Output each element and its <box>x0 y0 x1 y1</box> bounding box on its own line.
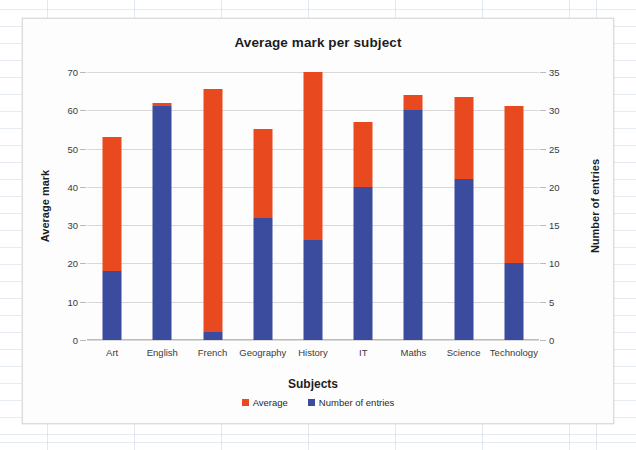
bar-stack[interactable] <box>103 137 122 340</box>
x-axis-tick-label: Technology <box>490 347 538 358</box>
y-axis-right-tick-label: 0 <box>549 335 554 346</box>
y-axis-right-tick-label: 30 <box>549 105 560 116</box>
bar-stack[interactable] <box>504 106 523 340</box>
bar-stack[interactable] <box>153 103 172 340</box>
y-axis-right-tick-label: 15 <box>549 220 560 231</box>
bar-stack[interactable] <box>354 122 373 340</box>
bar-segment-number-of-entries[interactable] <box>404 110 423 340</box>
y-axis-right-tick <box>540 302 546 303</box>
y-axis-left-tick <box>80 340 86 341</box>
y-axis-left-title-text: Average mark <box>39 170 51 242</box>
y-axis-right-tick-label: 5 <box>549 296 554 307</box>
legend-label: Number of entries <box>319 397 395 408</box>
legend-swatch-icon <box>308 399 315 406</box>
bar-segment-average[interactable] <box>303 72 322 240</box>
chart-legend: AverageNumber of entries <box>23 397 613 408</box>
bar-segment-average[interactable] <box>404 95 423 110</box>
bar-segment-number-of-entries[interactable] <box>354 187 373 340</box>
bar-segment-average[interactable] <box>203 89 222 332</box>
y-axis-left-tick <box>80 302 86 303</box>
y-axis-left-tick-label: 20 <box>67 258 78 269</box>
y-axis-right-tick <box>540 340 546 341</box>
y-axis-left-tick <box>80 149 86 150</box>
bar-stack[interactable] <box>253 129 272 340</box>
x-axis-tick-label: English <box>147 347 178 358</box>
bar-segment-average[interactable] <box>253 129 272 217</box>
y-axis-right-tick-label: 10 <box>549 258 560 269</box>
y-axis-right-tick <box>540 149 546 150</box>
y-axis-left-tick-label: 30 <box>67 220 78 231</box>
bar-group[interactable]: English <box>137 72 187 340</box>
bar-segment-number-of-entries[interactable] <box>504 263 523 340</box>
bar-group[interactable]: Maths <box>388 72 438 340</box>
y-axis-left-title: Average mark <box>37 72 53 340</box>
bar-stack[interactable] <box>203 89 222 340</box>
bar-group[interactable]: Technology <box>489 72 539 340</box>
y-axis-right-tick <box>540 110 546 111</box>
x-axis-tick-label: French <box>198 347 228 358</box>
y-axis-right-tick <box>540 225 546 226</box>
bar-group[interactable]: IT <box>338 72 388 340</box>
bar-stack[interactable] <box>303 72 322 340</box>
y-axis-right-tick-label: 35 <box>549 67 560 78</box>
y-axis-left-tick-label: 50 <box>67 143 78 154</box>
bar-segment-average[interactable] <box>354 122 373 187</box>
x-axis-tick-label: Maths <box>401 347 427 358</box>
bar-stack[interactable] <box>404 95 423 340</box>
y-axis-right-tick-label: 25 <box>549 143 560 154</box>
bar-segment-number-of-entries[interactable] <box>153 106 172 340</box>
chart-title: Average mark per subject <box>23 35 613 50</box>
legend-item[interactable]: Average <box>242 397 288 408</box>
y-axis-left-tick-label: 0 <box>73 335 78 346</box>
bar-series-group: ArtEnglishFrenchGeographyHistoryITMathsS… <box>87 72 539 340</box>
bar-segment-average[interactable] <box>454 97 473 179</box>
y-axis-left-tick <box>80 263 86 264</box>
bar-segment-average[interactable] <box>504 106 523 263</box>
bar-group[interactable]: Science <box>439 72 489 340</box>
bar-segment-number-of-entries[interactable] <box>103 271 122 340</box>
x-axis-title: Subjects <box>87 377 539 391</box>
y-axis-left-tick <box>80 225 86 226</box>
y-axis-right-tick <box>540 187 546 188</box>
legend-swatch-icon <box>242 399 249 406</box>
y-axis-left-tick-label: 10 <box>67 296 78 307</box>
bar-segment-number-of-entries[interactable] <box>253 218 272 341</box>
legend-item[interactable]: Number of entries <box>308 397 395 408</box>
y-axis-left-tick-label: 60 <box>67 105 78 116</box>
x-axis-tick-label: History <box>298 347 328 358</box>
bar-group[interactable]: Geography <box>238 72 288 340</box>
bar-segment-average[interactable] <box>103 137 122 271</box>
x-axis-tick-label: Art <box>106 347 118 358</box>
bar-group[interactable]: Art <box>87 72 137 340</box>
y-axis-left-tick <box>80 110 86 111</box>
chart-object[interactable]: Average mark per subject Average mark Nu… <box>22 18 614 424</box>
gridline <box>87 340 539 341</box>
y-axis-left-tick <box>80 72 86 73</box>
y-axis-right-title: Number of entries <box>587 72 603 340</box>
bar-segment-number-of-entries[interactable] <box>454 179 473 340</box>
y-axis-right-tick <box>540 263 546 264</box>
y-axis-left-tick-label: 40 <box>67 181 78 192</box>
bar-stack[interactable] <box>454 97 473 340</box>
bar-segment-number-of-entries[interactable] <box>303 240 322 340</box>
y-axis-left-tick-label: 70 <box>67 67 78 78</box>
bar-group[interactable]: French <box>187 72 237 340</box>
bar-segment-number-of-entries[interactable] <box>203 332 222 340</box>
x-axis-tick-label: Science <box>447 347 481 358</box>
x-axis-tick-label: IT <box>359 347 367 358</box>
bar-group[interactable]: History <box>288 72 338 340</box>
y-axis-right-title-text: Number of entries <box>589 159 601 253</box>
y-axis-left-tick <box>80 187 86 188</box>
legend-label: Average <box>253 397 288 408</box>
y-axis-right-tick-label: 20 <box>549 181 560 192</box>
y-axis-right-tick <box>540 72 546 73</box>
plot-area: 010203040506070 05101520253035 ArtEnglis… <box>87 72 539 340</box>
x-axis-tick-label: Geography <box>239 347 286 358</box>
